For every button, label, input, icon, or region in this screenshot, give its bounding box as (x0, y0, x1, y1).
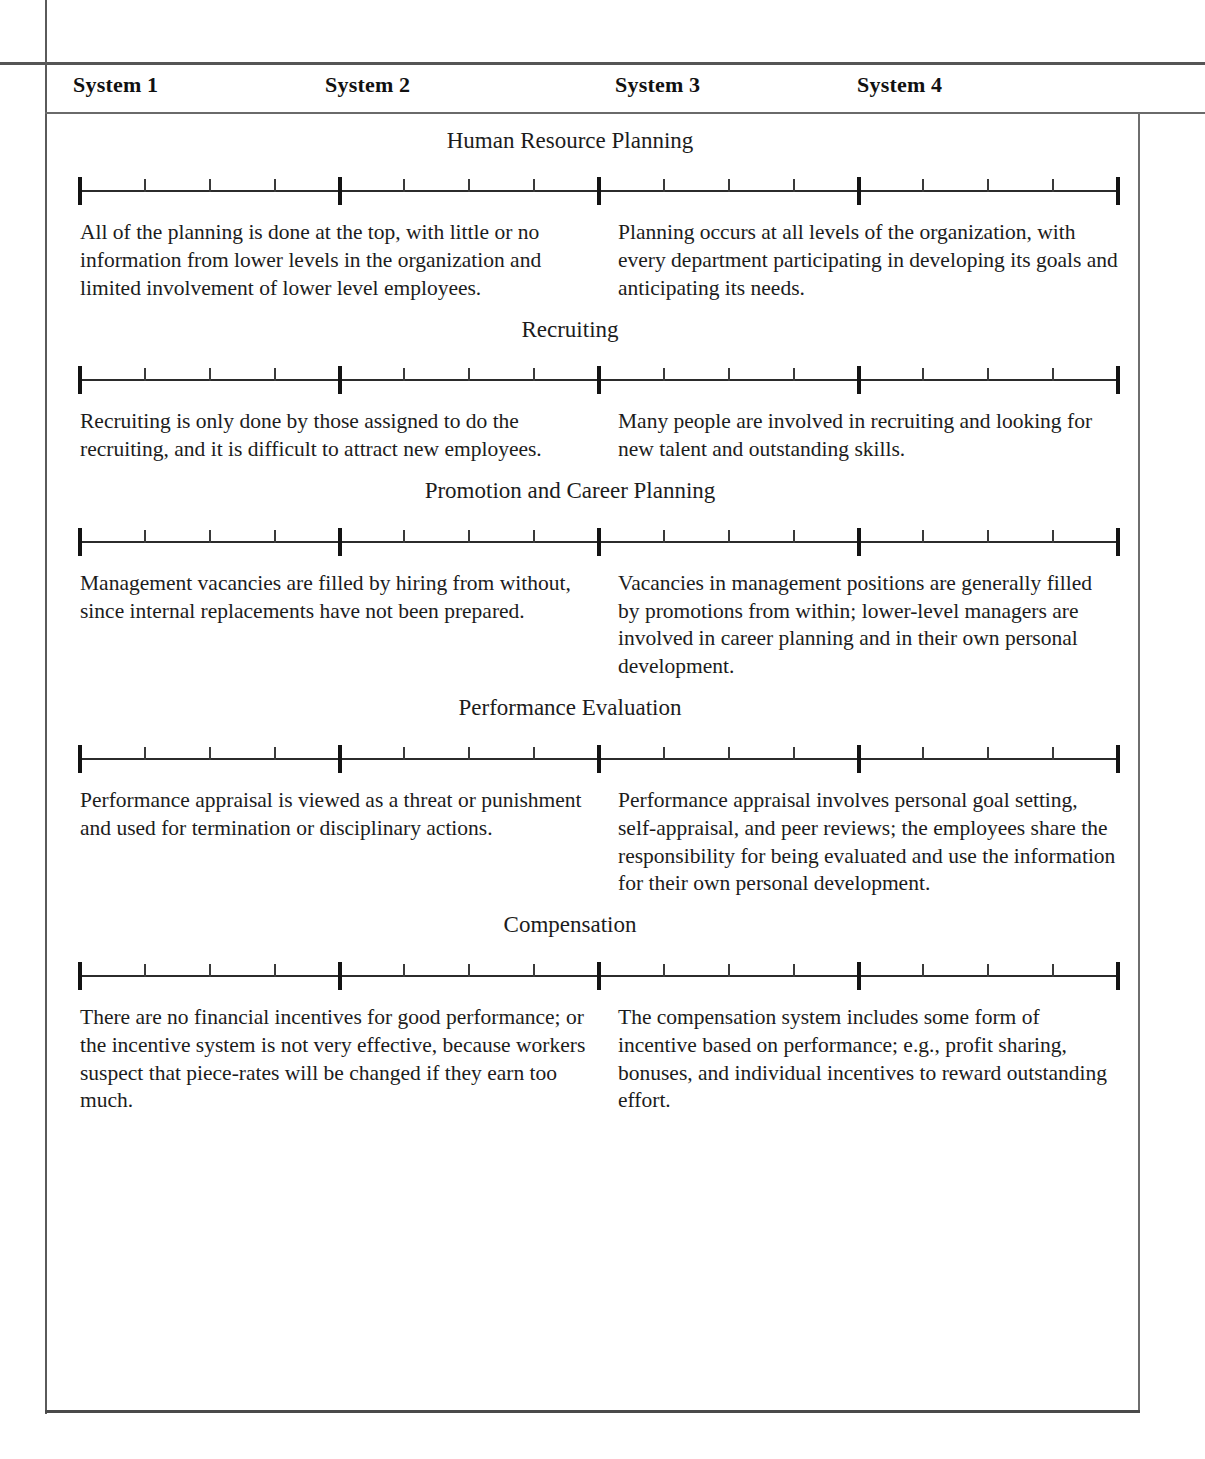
scale-tick-minor (403, 530, 405, 543)
scale-tick-major (1116, 177, 1120, 205)
scale-tick-minor (728, 530, 730, 543)
rating-scale[interactable] (80, 358, 1118, 392)
scale-tick-major (338, 528, 342, 556)
scale-tick-minor (922, 368, 924, 381)
description-system1: Management vacancies are filled by hirin… (80, 570, 590, 682)
rating-scale[interactable] (80, 737, 1118, 771)
scale-tick-major (78, 962, 82, 990)
scale-tick-minor (533, 747, 535, 760)
scale-tick-major (597, 745, 601, 773)
scale-tick-minor (728, 179, 730, 192)
scale-tick-major (857, 745, 861, 773)
scale-tick-minor (793, 368, 795, 381)
scale-tick-minor (987, 530, 989, 543)
description-row: Recruiting is only done by those assigne… (47, 408, 1138, 464)
section-human-resource-planning: Human Resource Planning All of the plann… (47, 114, 1138, 303)
description-row: Management vacancies are filled by hirin… (47, 570, 1138, 682)
scale-tick-minor (987, 747, 989, 760)
scale-tick-minor (663, 530, 665, 543)
scale-tick-major (338, 745, 342, 773)
rating-scale[interactable] (80, 169, 1118, 203)
scale-tick-minor (922, 530, 924, 543)
scale-tick-minor (209, 368, 211, 381)
scale-tick-major (78, 528, 82, 556)
scale-tick-minor (144, 530, 146, 543)
rating-scale[interactable] (80, 954, 1118, 988)
scale-tick-minor (663, 179, 665, 192)
description-system4: The compensation system includes some fo… (618, 1004, 1118, 1116)
description-system1: Performance appraisal is viewed as a thr… (80, 787, 590, 899)
rating-scale[interactable] (80, 520, 1118, 554)
scale-tick-minor (1052, 964, 1054, 977)
scale-tick-minor (144, 964, 146, 977)
scale-tick-minor (793, 179, 795, 192)
scale-tick-minor (274, 530, 276, 543)
scale-tick-minor (144, 747, 146, 760)
scale-tick-minor (1052, 747, 1054, 760)
section-performance-evaluation: Performance Evaluation Performance appra… (47, 681, 1138, 898)
scale-tick-minor (209, 747, 211, 760)
section-recruiting: Recruiting Recruiting is only done by th… (47, 303, 1138, 464)
scale-tick-major (857, 528, 861, 556)
description-system4: Vacancies in management positions are ge… (618, 570, 1118, 682)
scale-tick-minor (209, 964, 211, 977)
scale-tick-major (1116, 962, 1120, 990)
scale-tick-minor (1052, 530, 1054, 543)
scale-tick-major (78, 177, 82, 205)
table-bottom-border (45, 1410, 1140, 1413)
scale-tick-major (597, 962, 601, 990)
scale-tick-minor (468, 368, 470, 381)
scale-tick-major (1116, 745, 1120, 773)
scale-tick-minor (987, 368, 989, 381)
system-header-1: System 1 (73, 72, 158, 98)
scale-tick-minor (663, 747, 665, 760)
scale-tick-minor (533, 368, 535, 381)
section-title: Compensation (47, 898, 1138, 943)
scale-tick-major (1116, 366, 1120, 394)
scale-tick-minor (922, 179, 924, 192)
description-system1: Recruiting is only done by those assigne… (80, 408, 590, 464)
scale-tick-minor (144, 368, 146, 381)
system-header-2: System 2 (325, 72, 410, 98)
description-system4: Planning occurs at all levels of the org… (618, 219, 1118, 303)
scale-tick-minor (209, 530, 211, 543)
scale-tick-major (338, 366, 342, 394)
scale-tick-minor (403, 964, 405, 977)
scale-tick-minor (1052, 179, 1054, 192)
section-promotion-and-career-planning: Promotion and Career Planning Management… (47, 464, 1138, 681)
scale-tick-minor (468, 964, 470, 977)
scale-tick-minor (468, 179, 470, 192)
scale-tick-minor (728, 747, 730, 760)
scale-tick-major (857, 366, 861, 394)
scale-tick-minor (274, 179, 276, 192)
scale-tick-minor (468, 747, 470, 760)
scale-tick-minor (533, 530, 535, 543)
scale-tick-minor (533, 179, 535, 192)
system-header-row: System 1 System 2 System 3 System 4 (45, 64, 1205, 112)
sections-container: Human Resource Planning All of the plann… (47, 114, 1138, 1410)
scale-tick-minor (403, 179, 405, 192)
scale-tick-major (857, 177, 861, 205)
scale-tick-major (338, 177, 342, 205)
system-header-3: System 3 (615, 72, 700, 98)
document-page: System 1 System 2 System 3 System 4 Huma… (0, 0, 1205, 1459)
scale-tick-major (78, 745, 82, 773)
scale-tick-minor (209, 179, 211, 192)
system-header-4: System 4 (857, 72, 942, 98)
description-system4: Many people are involved in recruiting a… (618, 408, 1118, 464)
scale-tick-major (597, 528, 601, 556)
scale-tick-minor (793, 964, 795, 977)
section-title: Recruiting (47, 303, 1138, 348)
scale-tick-minor (922, 964, 924, 977)
scale-tick-minor (144, 179, 146, 192)
scale-tick-minor (728, 964, 730, 977)
section-compensation: Compensation There are no financial ince… (47, 898, 1138, 1115)
scale-tick-minor (403, 747, 405, 760)
scale-tick-major (597, 177, 601, 205)
scale-tick-minor (987, 179, 989, 192)
scale-tick-major (78, 366, 82, 394)
scale-tick-minor (987, 964, 989, 977)
scale-tick-minor (793, 747, 795, 760)
scale-tick-major (1116, 528, 1120, 556)
scale-tick-minor (403, 368, 405, 381)
